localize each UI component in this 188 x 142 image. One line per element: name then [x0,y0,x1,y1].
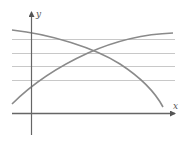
y-axis-label: y [35,9,42,19]
gridlines [12,40,175,81]
diagram: y x [0,0,188,142]
x-axis-label: x [173,101,178,111]
decreasing-curve [12,30,163,107]
increasing-curve [12,33,173,104]
